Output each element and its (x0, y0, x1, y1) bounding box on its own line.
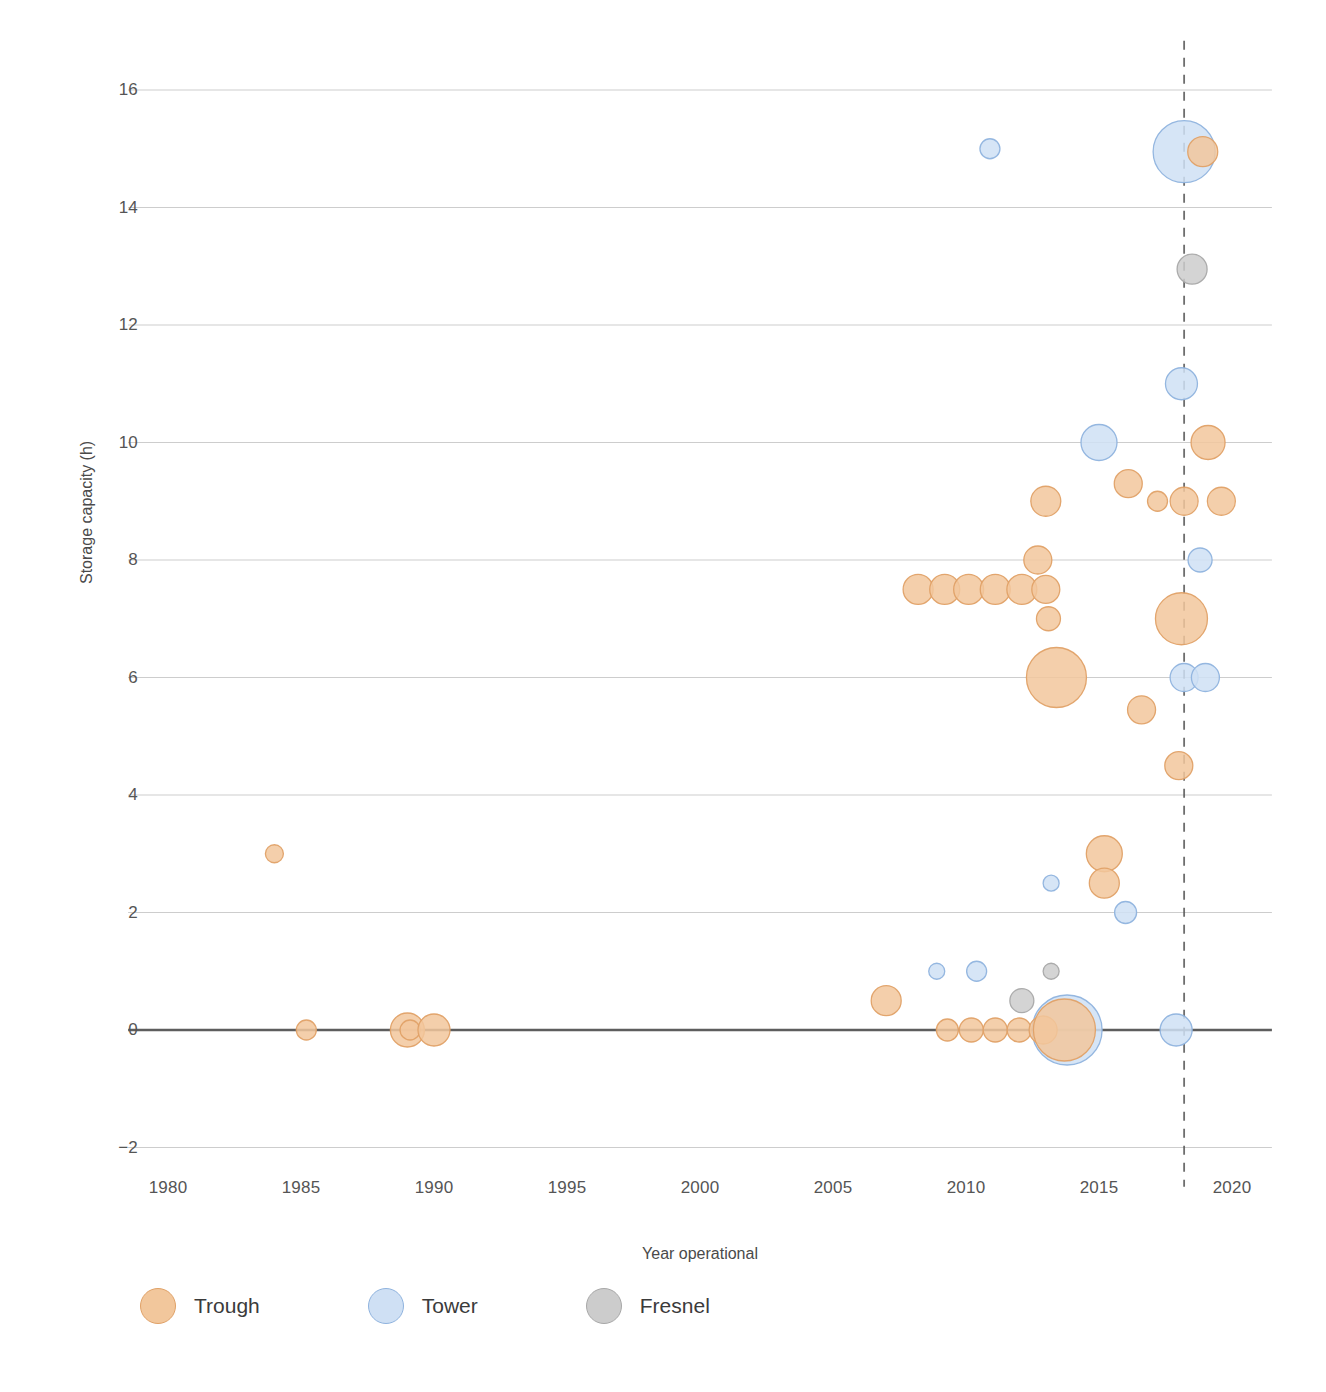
data-bubble[interactable] (1207, 487, 1235, 515)
y-tick-label: 4 (58, 785, 138, 805)
data-bubble[interactable] (1007, 1018, 1031, 1042)
data-bubble[interactable] (1026, 648, 1086, 708)
bubble-chart: −20246810121416 198019851990199520002005… (0, 0, 1326, 1392)
legend: Trough Tower Fresnel (140, 1288, 818, 1324)
data-bubble[interactable] (1033, 999, 1095, 1061)
y-tick-label: −2 (58, 1138, 138, 1158)
data-bubble[interactable] (871, 986, 901, 1016)
data-bubble[interactable] (418, 1014, 450, 1046)
x-tick-label: 1985 (282, 1178, 321, 1198)
x-tick-label: 2000 (681, 1178, 720, 1198)
x-axis-title: Year operational (642, 1245, 758, 1263)
data-bubble[interactable] (1089, 868, 1119, 898)
data-bubble[interactable] (1086, 836, 1122, 872)
legend-swatch-fresnel (586, 1288, 622, 1324)
y-tick-label: 8 (58, 550, 138, 570)
data-bubble[interactable] (400, 1020, 420, 1040)
y-tick-label: 6 (58, 668, 138, 688)
legend-label-fresnel: Fresnel (640, 1294, 710, 1318)
data-bubble[interactable] (1188, 137, 1218, 167)
data-bubble[interactable] (1032, 575, 1060, 603)
data-bubble[interactable] (1024, 546, 1052, 574)
y-tick-label: 16 (58, 80, 138, 100)
y-axis-title: Storage capacity (h) (78, 440, 96, 583)
x-tick-label: 1990 (415, 1178, 454, 1198)
data-bubble[interactable] (1165, 368, 1197, 400)
data-bubble[interactable] (959, 1018, 983, 1042)
y-tick-label: 12 (58, 315, 138, 335)
legend-item-tower[interactable]: Tower (368, 1288, 478, 1324)
data-bubble[interactable] (1188, 548, 1212, 572)
data-bubble[interactable] (903, 574, 933, 604)
data-bubble[interactable] (1081, 425, 1117, 461)
data-bubble[interactable] (1043, 963, 1059, 979)
plot-area (0, 0, 1326, 1392)
x-tick-label: 2015 (1080, 1178, 1119, 1198)
data-bubble[interactable] (1128, 696, 1156, 724)
data-bubble[interactable] (1191, 426, 1225, 460)
data-bubble[interactable] (265, 845, 283, 863)
data-bubble[interactable] (929, 963, 945, 979)
data-bubble[interactable] (1115, 902, 1137, 924)
legend-swatch-tower (368, 1288, 404, 1324)
data-bubble[interactable] (1148, 491, 1168, 511)
legend-item-fresnel[interactable]: Fresnel (586, 1288, 710, 1324)
data-bubble[interactable] (980, 139, 1000, 159)
y-tick-label: 14 (58, 198, 138, 218)
legend-item-trough[interactable]: Trough (140, 1288, 260, 1324)
data-bubble[interactable] (1114, 470, 1142, 498)
data-bubble[interactable] (1043, 875, 1059, 891)
legend-label-tower: Tower (422, 1294, 478, 1318)
data-bubble[interactable] (967, 961, 987, 981)
y-tick-label: 0 (58, 1020, 138, 1040)
data-bubble[interactable] (296, 1020, 316, 1040)
data-bubble[interactable] (1170, 487, 1198, 515)
data-bubble[interactable] (1177, 254, 1207, 284)
legend-swatch-trough (140, 1288, 176, 1324)
data-bubble[interactable] (980, 574, 1010, 604)
y-tick-label: 2 (58, 903, 138, 923)
data-bubble[interactable] (1010, 989, 1034, 1013)
x-tick-label: 2010 (947, 1178, 986, 1198)
data-bubble[interactable] (936, 1019, 958, 1041)
series-trough (265, 137, 1235, 1061)
data-bubble[interactable] (1155, 593, 1207, 645)
legend-label-trough: Trough (194, 1294, 260, 1318)
x-tick-label: 2020 (1213, 1178, 1252, 1198)
y-tick-label: 10 (58, 433, 138, 453)
x-tick-label: 1980 (149, 1178, 188, 1198)
x-tick-label: 2005 (814, 1178, 853, 1198)
data-bubble[interactable] (1165, 752, 1193, 780)
data-bubble[interactable] (954, 574, 984, 604)
data-bubble[interactable] (983, 1018, 1007, 1042)
data-bubble[interactable] (1160, 1014, 1192, 1046)
data-bubble[interactable] (1036, 607, 1060, 631)
x-tick-label: 1995 (548, 1178, 587, 1198)
data-bubble[interactable] (1031, 486, 1061, 516)
data-bubble[interactable] (1191, 664, 1219, 692)
